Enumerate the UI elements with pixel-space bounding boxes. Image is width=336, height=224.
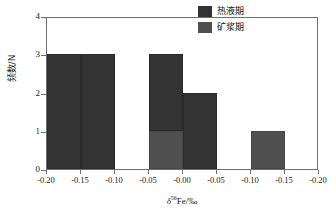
histogram-chart: 频数/N 43210 -0.20-0.15-0.10-0.05-0.00-0.0… [0, 0, 336, 224]
bar [81, 54, 115, 169]
y-tick-label: 2 [8, 89, 40, 98]
legend-item-slurry-phase: 矿浆期 [198, 22, 264, 33]
x-axis-label: δ56Fe/‰ [46, 195, 318, 206]
x-tick-mark [284, 170, 285, 174]
bar-segment-hot-phase [47, 54, 81, 169]
legend-label-slurry-phase: 矿浆期 [217, 22, 244, 33]
bar [47, 54, 81, 169]
plot-area [47, 18, 317, 169]
x-tick-mark [114, 170, 115, 174]
x-tick-mark [250, 170, 251, 174]
bar-segment-slurry-phase [251, 131, 285, 169]
y-tick-label: 3 [8, 50, 40, 59]
bar-segment-slurry-phase [149, 131, 183, 169]
y-tick-label: 4 [8, 12, 40, 21]
x-tick-mark [46, 170, 47, 174]
x-tick-mark [182, 170, 183, 174]
x-label-rest: Fe/‰ [177, 196, 198, 206]
x-tick-mark [148, 170, 149, 174]
legend-swatch-hot-phase [198, 6, 212, 17]
x-tick-mark [216, 170, 217, 174]
bar-segment-hot-phase [149, 54, 183, 131]
y-tick-label: 1 [8, 127, 40, 136]
bar [149, 54, 183, 169]
bar-segment-hot-phase [183, 93, 217, 170]
legend-label-hot-phase: 热液期 [217, 6, 244, 17]
plot-frame [46, 17, 318, 170]
x-tick-mark [80, 170, 81, 174]
bar [251, 131, 285, 169]
x-tick-mark [318, 170, 319, 174]
bar-segment-hot-phase [81, 54, 115, 169]
y-tick-label: 0 [8, 165, 40, 174]
bar [183, 93, 217, 170]
legend-swatch-slurry-phase [198, 22, 212, 33]
legend: 热液期 矿浆期 [198, 6, 264, 38]
x-tick-label: -0.20 [296, 176, 336, 185]
legend-item-hot-phase: 热液期 [198, 6, 264, 17]
